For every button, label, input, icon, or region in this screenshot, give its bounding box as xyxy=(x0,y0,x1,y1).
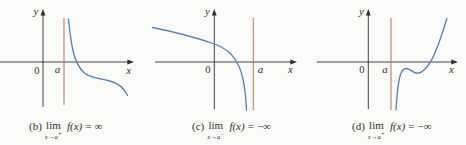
limit-subscript: x→a− xyxy=(207,132,224,140)
caption-prefix: (c) xyxy=(192,120,204,133)
asymptote-label: a xyxy=(55,63,61,75)
caption-prefix: (b) xyxy=(29,120,42,133)
y-axis-label: y xyxy=(33,5,39,17)
caption-c: (c) lim x→a− f(x) = −∞ xyxy=(192,120,271,140)
panel-c-graph: y 0 a x xyxy=(153,5,298,110)
limit-subscript: x→a+ xyxy=(45,132,62,140)
limit-operator: lim x→a+ xyxy=(45,120,62,140)
limits-figure: y 0 a x y 0 a x y 0 a xyxy=(0,0,466,145)
origin-label: 0 xyxy=(359,64,364,75)
asymptote-label: a xyxy=(382,63,388,75)
function-curve xyxy=(69,19,128,96)
y-axis-arrow-icon xyxy=(212,9,217,16)
lim-text: lim xyxy=(369,120,384,131)
caption-b: (b) lim x→a+ f(x) = ∞ xyxy=(29,120,102,140)
x-axis-label: x xyxy=(125,64,131,76)
lim-text: lim xyxy=(46,120,61,131)
y-axis-arrow-icon xyxy=(366,9,371,16)
equals-sign: = xyxy=(248,120,254,133)
panel-d-graph: y 0 a x xyxy=(317,5,458,110)
lim-text: lim xyxy=(208,120,223,131)
origin-label: 0 xyxy=(205,64,210,75)
limit-value: −∞ xyxy=(257,120,271,133)
limit-subscript: x→a+ xyxy=(368,132,385,140)
function-curve xyxy=(396,19,447,111)
equals-sign: = xyxy=(85,120,91,133)
caption-d: (d) lim x→a+ f(x) = −∞ xyxy=(352,120,432,140)
x-axis-label: x xyxy=(287,63,293,75)
function-curve xyxy=(153,28,247,111)
one-sided-sign: + xyxy=(381,131,385,137)
function-expression: f(x) xyxy=(67,120,82,133)
limit-value: −∞ xyxy=(417,120,431,133)
limit-operator: lim x→a− xyxy=(207,120,224,140)
y-axis-arrow-icon xyxy=(41,9,46,16)
function-expression: f(x) xyxy=(390,120,405,133)
panel-b-graph: y 0 a x xyxy=(0,5,134,107)
caption-prefix: (d) xyxy=(352,120,365,133)
x-axis-label: x xyxy=(448,63,454,75)
limit-value: ∞ xyxy=(94,120,102,133)
asymptote-label: a xyxy=(258,63,264,75)
one-sided-sign: + xyxy=(58,131,62,137)
y-axis-label: y xyxy=(358,5,364,17)
y-axis-label: y xyxy=(204,5,210,17)
limit-operator: lim x→a+ xyxy=(368,120,385,140)
origin-label: 0 xyxy=(34,65,39,76)
one-sided-sign: − xyxy=(220,131,224,137)
function-expression: f(x) xyxy=(229,120,244,133)
equals-sign: = xyxy=(408,120,414,133)
